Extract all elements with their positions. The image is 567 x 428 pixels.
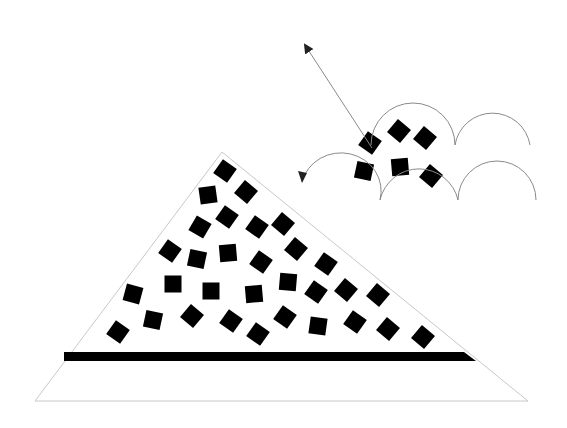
ejection-arrow	[305, 45, 372, 148]
particle	[234, 180, 258, 204]
particle	[376, 317, 400, 341]
trajectory-arc	[455, 113, 530, 145]
arc-arrowhead-icon	[298, 171, 307, 183]
particle	[203, 283, 220, 300]
particle	[187, 249, 207, 269]
particle	[413, 126, 437, 150]
particle	[304, 280, 328, 304]
particle	[246, 322, 270, 346]
particle	[106, 320, 130, 344]
particles-group	[106, 119, 443, 349]
particle	[271, 212, 295, 236]
particle	[180, 304, 204, 328]
base-band	[64, 352, 476, 361]
particle	[366, 283, 390, 307]
particle	[354, 161, 374, 181]
particle	[358, 131, 382, 155]
trajectory-arc	[371, 103, 455, 145]
particle	[314, 252, 338, 276]
particle	[308, 316, 327, 335]
particle	[245, 285, 263, 303]
particle	[123, 284, 144, 305]
particle-pile-diagram	[0, 0, 567, 428]
trajectory-arc	[380, 169, 458, 200]
trajectory-arcs-group	[302, 103, 536, 200]
particle	[245, 215, 269, 239]
particle	[387, 119, 411, 143]
particle	[273, 305, 297, 329]
particle	[158, 239, 182, 263]
particle	[219, 309, 243, 333]
trajectory-arc	[458, 161, 536, 200]
particle	[411, 325, 435, 349]
particle	[213, 159, 237, 183]
particle	[215, 205, 239, 229]
particle	[165, 276, 182, 293]
particle	[249, 250, 273, 274]
particle	[334, 278, 358, 302]
particle	[188, 215, 211, 238]
particle	[419, 164, 443, 188]
particle	[143, 310, 163, 330]
particle	[279, 273, 297, 291]
particle	[343, 310, 367, 334]
particle	[284, 237, 308, 261]
particle	[198, 185, 217, 204]
particle	[219, 244, 237, 262]
diagram-canvas	[0, 0, 567, 428]
